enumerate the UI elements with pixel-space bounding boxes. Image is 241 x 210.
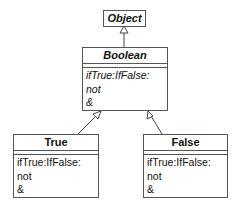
class-name: Boolean xyxy=(83,48,167,64)
operation: ifTrue:IfFalse: xyxy=(17,156,95,170)
class-name: True xyxy=(14,135,98,151)
operation: ifTrue:IfFalse: xyxy=(86,69,164,83)
operation: not xyxy=(86,83,164,97)
operations-compartment: ifTrue:IfFalse: not & xyxy=(14,155,98,198)
class-false: False ifTrue:IfFalse: not & xyxy=(143,134,228,198)
operation: not xyxy=(17,170,95,184)
class-object: Object xyxy=(103,10,146,27)
class-boolean: Boolean ifTrue:IfFalse: not & xyxy=(82,47,168,111)
operation: & xyxy=(86,96,164,110)
class-name: Object xyxy=(104,11,145,26)
operations-compartment: ifTrue:IfFalse: not & xyxy=(144,155,227,198)
operation: ifTrue:IfFalse: xyxy=(147,156,224,170)
generalization-arrowhead-icon xyxy=(120,26,128,33)
class-name: False xyxy=(144,135,227,151)
operation: & xyxy=(147,183,224,197)
operation: & xyxy=(17,183,95,197)
class-true: True ifTrue:IfFalse: not & xyxy=(13,134,99,198)
operations-compartment: ifTrue:IfFalse: not & xyxy=(83,68,167,111)
operation: not xyxy=(147,170,224,184)
